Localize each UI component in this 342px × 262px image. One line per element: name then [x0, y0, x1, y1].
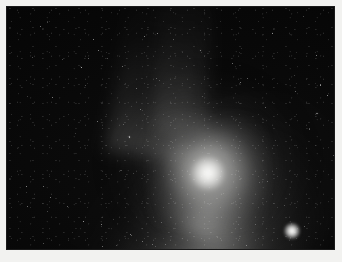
sensor-noise-overlay — [7, 7, 334, 249]
astrophotograph-plate — [7, 7, 334, 249]
photo-frame — [0, 0, 342, 262]
